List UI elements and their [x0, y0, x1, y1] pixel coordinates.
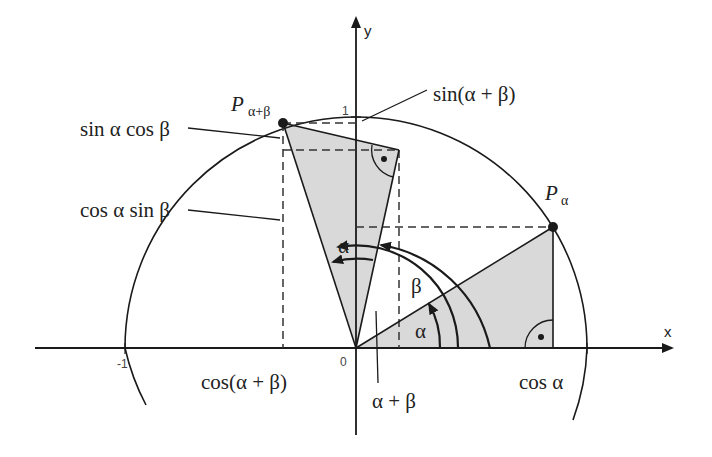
tick-y-one: 1 — [342, 104, 349, 118]
cos-alpha-plus-beta-label: cos(α + β) — [201, 370, 287, 394]
point-p-alpha-beta — [278, 118, 288, 128]
p-alpha-subscript: α — [561, 193, 569, 208]
cos-alpha-sin-beta-label: cos α sin β — [80, 198, 170, 222]
unit-circle-diagram: y x 0 -1 1 P α+β P α sin α cos β cos α s… — [0, 0, 712, 457]
sin-alpha-plus-beta-label: sin(α + β) — [433, 82, 516, 106]
p-alpha-label: P — [544, 181, 558, 205]
angle-alpha-upper-label: α — [338, 234, 349, 258]
point-p-alpha — [548, 222, 558, 232]
tick-neg-one: -1 — [117, 357, 128, 371]
y-axis-label: y — [364, 22, 372, 39]
angle-alpha-lower-label: α — [415, 319, 426, 343]
angle-beta-label: β — [411, 274, 422, 298]
alpha-plus-beta-label: α + β — [372, 389, 416, 413]
cos-alpha-label: cos α — [519, 370, 563, 394]
p-alpha-beta-subscript: α+β — [248, 104, 270, 119]
p-alpha-beta-label: P — [230, 92, 244, 116]
sin-alpha-cos-beta-label: sin α cos β — [80, 117, 170, 141]
origin-label: 0 — [340, 355, 347, 369]
x-axis-label: x — [664, 323, 672, 340]
